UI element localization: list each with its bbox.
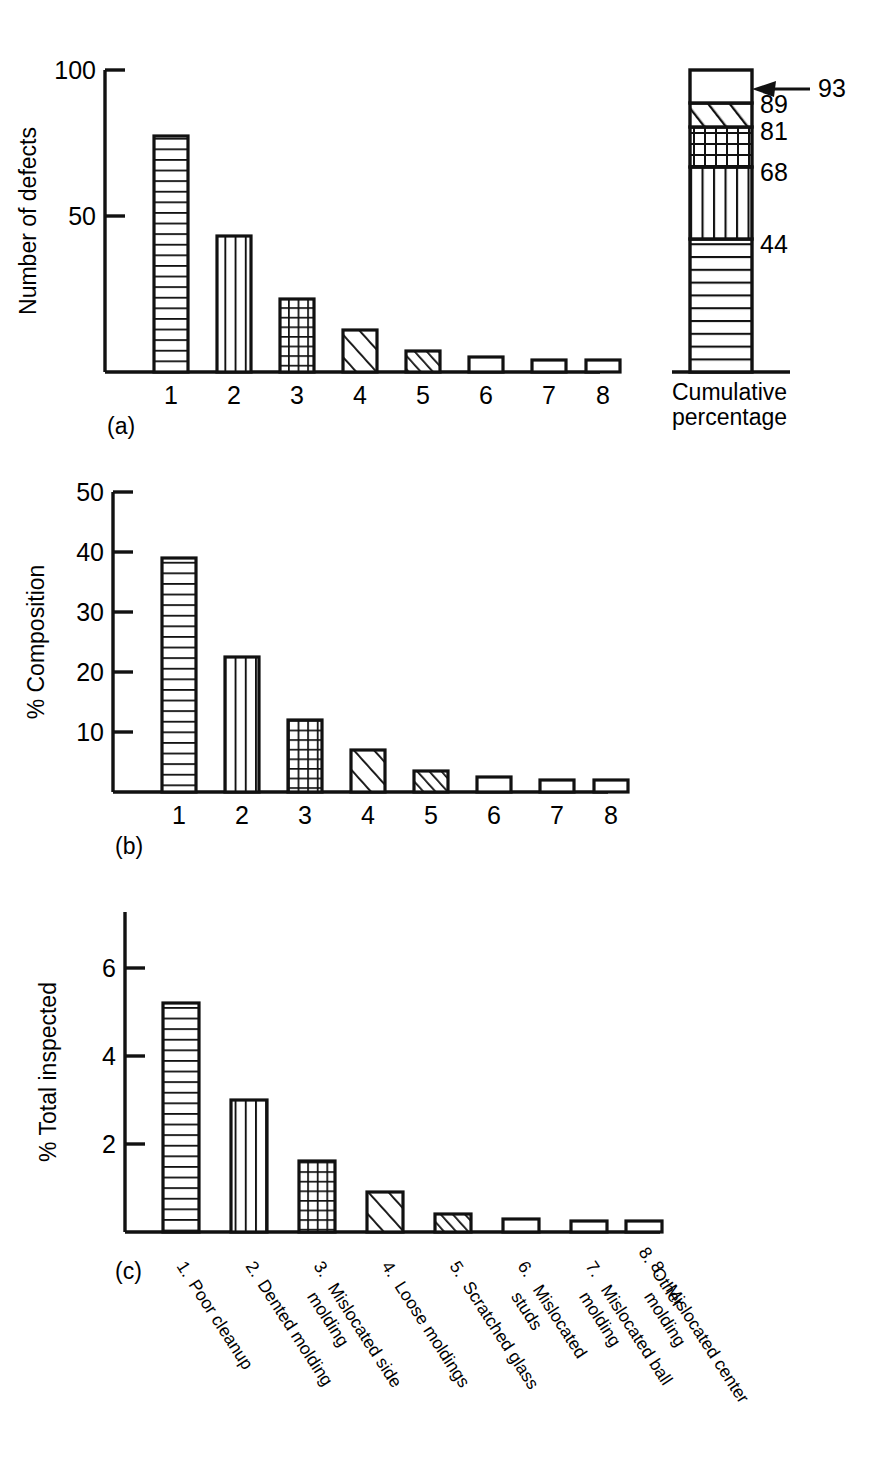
pareto-figure: 100 50 Number of defects 1 2 3 4 5 6 [0, 0, 888, 1473]
panel-b-bar-4 [351, 750, 385, 792]
cumulative-segment-4 [690, 103, 752, 127]
panel-b-ytick-label-10: 10 [76, 718, 104, 746]
panel-c-tag: (c) [115, 1258, 142, 1284]
panel-c-y-axis-title: % Total inspected [35, 982, 61, 1162]
panel-b-xtick-8: 8 [604, 801, 618, 829]
panel-c-bar-7 [571, 1221, 607, 1232]
cumulative-segment-3 [690, 127, 752, 167]
panel-a-xtick-2: 2 [227, 381, 241, 409]
panel-c-bar-1 [163, 1003, 199, 1232]
panel-b-bar-8 [594, 780, 628, 792]
cumulative-label-44: 44 [760, 230, 788, 258]
panel-c-bar-8 [626, 1221, 662, 1232]
panel-c-bar-3 [299, 1161, 335, 1232]
panel-c-ytick-label-4: 4 [102, 1042, 116, 1070]
panel-b-ytick-label-30: 30 [76, 598, 104, 626]
panel-a-bar-2 [217, 236, 251, 372]
panel-b-bar-7 [540, 780, 574, 792]
panel-a-ytick-label-100: 100 [54, 56, 96, 84]
panel-c-bar-5 [435, 1214, 471, 1232]
panel-a-bar-4 [343, 330, 377, 372]
cumulative-caption-line1: Cumulative [672, 379, 787, 405]
canvas-background [0, 0, 888, 1473]
cumulative-caption-line2: percentage [672, 404, 787, 430]
panel-b-bar-6 [477, 777, 511, 792]
panel-c-ytick-label-2: 2 [102, 1130, 116, 1158]
panel-b-xtick-6: 6 [487, 801, 501, 829]
panel-a-tag: (a) [107, 413, 135, 439]
panel-a-xtick-1: 1 [164, 381, 178, 409]
panel-b-ytick-label-20: 20 [76, 658, 104, 686]
panel-b-xtick-1: 1 [172, 801, 186, 829]
panel-a-xtick-7: 7 [542, 381, 556, 409]
panel-c-ytick-label-6: 6 [102, 954, 116, 982]
panel-b-bar-1 [162, 558, 196, 792]
cumulative-label-81: 81 [760, 117, 788, 145]
cumulative-segment-1 [690, 239, 752, 372]
panel-a-bar-7 [532, 360, 566, 372]
panel-b-xtick-3: 3 [298, 801, 312, 829]
panel-a-xtick-6: 6 [479, 381, 493, 409]
panel-a-ytick-label-50: 50 [68, 202, 96, 230]
panel-a-xtick-8: 8 [596, 381, 610, 409]
panel-a-bar-1 [154, 136, 188, 372]
panel-a-xtick-5: 5 [416, 381, 430, 409]
panel-b-y-axis-title: % Composition [23, 565, 49, 720]
panel-b-bar-3 [288, 720, 322, 792]
panel-c-bar-4 [367, 1192, 403, 1232]
panel-a-y-axis-title: Number of defects [15, 127, 41, 315]
panel-c-bar-6 [503, 1219, 539, 1232]
panel-b-bar-2 [225, 657, 259, 792]
panel-b-xtick-5: 5 [424, 801, 438, 829]
panel-b-xtick-7: 7 [550, 801, 564, 829]
cumulative-label-93: 93 [818, 74, 846, 102]
panel-b-ytick-label-50: 50 [76, 478, 104, 506]
pareto-svg: 100 50 Number of defects 1 2 3 4 5 6 [0, 0, 888, 1473]
panel-b-xtick-4: 4 [361, 801, 375, 829]
panel-a-bar-6 [469, 357, 503, 372]
panel-a-bar-8 [586, 360, 620, 372]
cumulative-label-89: 89 [760, 90, 788, 118]
panel-b-xtick-2: 2 [235, 801, 249, 829]
cumulative-segment-2 [690, 167, 752, 239]
panel-c-bar-2 [231, 1100, 267, 1232]
panel-b-ytick-label-40: 40 [76, 538, 104, 566]
panel-a-xtick-4: 4 [353, 381, 367, 409]
cumulative-segment-5 [690, 70, 752, 103]
panel-b-bar-5 [414, 771, 448, 792]
cumulative-stack [690, 70, 752, 372]
panel-a-xtick-3: 3 [290, 381, 304, 409]
panel-b-tag: (b) [115, 833, 143, 859]
cumulative-label-68: 68 [760, 158, 788, 186]
panel-a-bar-5 [406, 351, 440, 372]
panel-a-bar-3 [280, 299, 314, 372]
